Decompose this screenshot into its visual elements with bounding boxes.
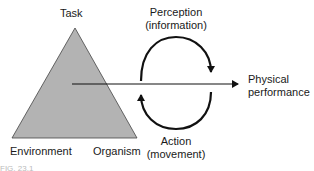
action-loop-arrow	[141, 92, 211, 129]
perception-subtitle: (information)	[145, 19, 207, 32]
figure-caption: FIG. 23.1	[0, 164, 33, 171]
action-label: Action (movement)	[145, 135, 207, 161]
physical-performance-label: Physical performance	[248, 73, 310, 99]
physical-line2: performance	[248, 86, 310, 99]
environment-label: Environment	[10, 145, 72, 158]
perception-label: Perception (information)	[145, 6, 207, 32]
action-title: Action	[145, 135, 207, 148]
organism-label: Organism	[93, 145, 141, 158]
action-subtitle: (movement)	[145, 148, 207, 161]
perception-loop-arrow	[141, 37, 211, 81]
task-label: Task	[60, 7, 83, 20]
diagram-canvas: Task Environment Organism Perception (in…	[0, 0, 314, 171]
perception-title: Perception	[145, 6, 207, 19]
constraints-triangle	[12, 28, 137, 138]
physical-line1: Physical	[248, 73, 310, 86]
